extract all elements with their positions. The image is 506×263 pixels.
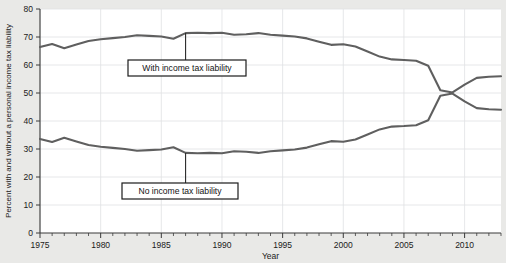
x-tick-label: 1980 (91, 240, 110, 250)
x-tick-label: 1995 (273, 240, 292, 250)
x-axis-title: Year (262, 251, 279, 261)
line-chart: 01020304050607080 1975198019851990199520… (0, 0, 506, 263)
y-tick-label: 0 (28, 228, 33, 238)
x-tick-label: 1985 (152, 240, 171, 250)
y-tick-label: 20 (24, 172, 34, 182)
y-tick-label: 40 (24, 116, 34, 126)
y-tick-label: 10 (24, 200, 34, 210)
y-tick-label: 30 (24, 144, 34, 154)
x-tick-label: 2000 (334, 240, 353, 250)
y-tick-label: 60 (24, 60, 34, 70)
x-tick-label: 1990 (213, 240, 232, 250)
y-axis-title: Percent with and without a personal inco… (4, 24, 13, 218)
x-tick-label: 2010 (455, 240, 474, 250)
chart-figure: 01020304050607080 1975198019851990199520… (0, 0, 506, 263)
annotation-label-0: With income tax liability (142, 63, 232, 73)
annotation-label-1: No income tax liability (138, 186, 222, 196)
y-tick-label: 50 (24, 88, 34, 98)
y-tick-label: 70 (24, 32, 34, 42)
y-tick-label: 80 (24, 4, 34, 14)
x-tick-label: 2005 (394, 240, 413, 250)
x-tick-label: 1975 (31, 240, 50, 250)
